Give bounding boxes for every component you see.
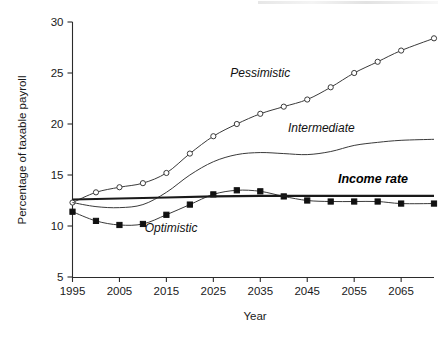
y-tick-label: 30: [51, 16, 64, 28]
x-axis-ticks: 19952005201520252035204520552065: [60, 277, 414, 297]
y-tick-label: 10: [51, 220, 64, 232]
data-point-marker: [328, 85, 333, 90]
social-security-cost-rate-chart: 51015202530 1995200520152025203520452055…: [0, 0, 442, 341]
data-point-marker: [164, 212, 169, 217]
data-point-marker: [375, 199, 380, 204]
x-tick-label: 2015: [154, 285, 180, 297]
y-tick-label: 25: [51, 67, 64, 79]
data-point-marker: [305, 198, 310, 203]
data-point-marker: [375, 59, 380, 64]
x-tick-label: 2005: [107, 285, 133, 297]
y-axis-title: Percentage of taxable payroll: [16, 76, 28, 225]
data-point-marker: [399, 201, 404, 206]
annotation-income-rate: Income rate: [338, 172, 408, 186]
data-point-marker: [187, 151, 192, 156]
data-point-marker: [431, 201, 436, 206]
x-tick-label: 2045: [294, 285, 320, 297]
data-point-marker: [93, 218, 98, 223]
data-point-marker: [164, 170, 169, 175]
data-point-marker: [352, 70, 357, 75]
x-tick-label: 2065: [388, 285, 414, 297]
data-point-marker: [140, 181, 145, 186]
y-tick-label: 20: [51, 118, 64, 130]
x-tick-label: 2025: [201, 285, 227, 297]
data-point-marker: [305, 97, 310, 102]
data-point-marker: [399, 48, 404, 53]
y-axis-ticks: 51015202530: [51, 16, 73, 283]
data-point-marker: [93, 190, 98, 195]
annotation-intermediate: Intermediate: [288, 121, 355, 135]
series-layer: [70, 36, 437, 228]
annotation-optimistic: Optimistic: [145, 221, 198, 235]
data-point-marker: [431, 36, 436, 41]
data-point-marker: [187, 202, 192, 207]
data-point-marker: [211, 134, 216, 139]
data-point-marker: [281, 104, 286, 109]
data-point-marker: [70, 209, 75, 214]
data-point-marker: [117, 185, 122, 190]
data-point-marker: [258, 189, 263, 194]
data-point-marker: [258, 111, 263, 116]
y-tick-label: 15: [51, 169, 64, 181]
x-tick-label: 1995: [60, 285, 86, 297]
x-axis-title: Year: [243, 310, 266, 322]
x-tick-label: 2035: [247, 285, 273, 297]
data-point-marker: [234, 121, 239, 126]
series-annotations: PessimisticIntermediateIncome rateOptimi…: [145, 66, 408, 235]
y-tick-label: 5: [57, 271, 63, 283]
chart-figure: 51015202530 1995200520152025203520452055…: [0, 0, 442, 341]
data-point-marker: [117, 222, 122, 227]
data-point-marker: [234, 188, 239, 193]
annotation-pessimistic: Pessimistic: [230, 66, 290, 80]
data-point-marker: [328, 199, 333, 204]
data-point-marker: [352, 199, 357, 204]
x-tick-label: 2055: [341, 285, 367, 297]
